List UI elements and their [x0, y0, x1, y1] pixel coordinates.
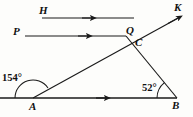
point-label-A: A [29, 101, 36, 112]
point-label-K: K [174, 2, 181, 13]
angle-label-b: 52° [142, 83, 157, 94]
angle-label-a: 154° [2, 73, 22, 84]
line-AK [33, 17, 180, 98]
point-label-B: B [172, 100, 179, 111]
point-label-P: P [13, 26, 20, 37]
geometry-figure: H K P Q C A B 154° 52° [0, 0, 193, 117]
line-AK-arrow-icon [168, 17, 180, 23]
angle-arc-B [157, 83, 164, 98]
point-label-H: H [39, 5, 48, 16]
point-label-C: C [135, 37, 142, 48]
point-label-Q: Q [126, 25, 134, 36]
